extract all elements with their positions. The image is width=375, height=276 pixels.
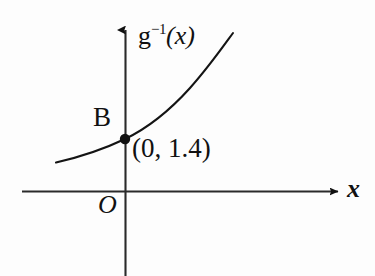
function-label-argument: (x): [166, 21, 195, 50]
point-b-marker: [120, 134, 130, 144]
function-label: g−1(x): [138, 22, 195, 49]
x-axis-label: x: [347, 176, 360, 202]
function-label-superscript: −1: [151, 21, 166, 37]
function-label-name: g: [138, 21, 151, 50]
point-coordinate-label: (0, 1.4): [132, 135, 211, 162]
point-label-b: B: [93, 104, 111, 131]
math-figure-inverse-function: g−1(x) B (0, 1.4) O x: [0, 0, 375, 276]
origin-label: O: [98, 192, 117, 218]
